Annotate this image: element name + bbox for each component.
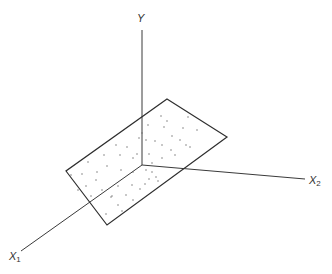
data-point (160, 115, 161, 116)
data-point (147, 124, 148, 125)
data-point (161, 157, 162, 158)
data-point (145, 139, 146, 140)
data-point (110, 196, 111, 197)
data-point (151, 162, 152, 163)
data-point (81, 173, 82, 174)
data-point (126, 146, 127, 147)
y-axis-label: Y (137, 13, 144, 24)
data-point (77, 189, 78, 190)
data-point (111, 195, 112, 196)
data-point (117, 204, 118, 205)
data-point (185, 144, 186, 145)
data-point (132, 157, 133, 158)
data-point (179, 139, 180, 140)
y-axis-label-text: Y (137, 12, 144, 24)
x2-axis-label: X2 (309, 175, 321, 188)
data-point (120, 169, 121, 170)
data-point (106, 165, 107, 166)
data-point (163, 126, 164, 127)
regression-plane (66, 99, 227, 225)
data-point (119, 154, 120, 155)
data-point (138, 137, 139, 138)
data-point (145, 169, 146, 170)
data-point (115, 144, 116, 145)
data-point (151, 171, 152, 172)
x2-axis-label-subscript: 2 (316, 179, 320, 188)
data-point (154, 140, 155, 141)
data-point (166, 120, 167, 121)
data-point (85, 185, 86, 186)
data-point (96, 171, 97, 172)
data-point (132, 171, 133, 172)
x2-axis (142, 165, 305, 179)
data-point (117, 185, 118, 186)
data-point (70, 174, 71, 175)
regression-plane-diagram (0, 0, 332, 274)
data-point (157, 180, 158, 181)
data-point (139, 188, 140, 189)
data-point (196, 129, 197, 130)
data-point (136, 153, 137, 154)
data-point (148, 178, 149, 179)
data-point (95, 179, 96, 180)
data-point (90, 195, 91, 196)
data-point (170, 149, 171, 150)
data-point (87, 161, 88, 162)
data-point (131, 184, 132, 185)
data-point (103, 154, 104, 155)
data-point (189, 146, 190, 147)
data-point (105, 213, 106, 214)
data-point (155, 176, 156, 177)
data-point (132, 199, 133, 200)
data-point (174, 154, 175, 155)
data-point (171, 135, 172, 136)
data-points (70, 115, 197, 214)
x1-axis (21, 165, 142, 251)
data-point (144, 183, 145, 184)
data-point (148, 153, 149, 154)
data-point (125, 194, 126, 195)
data-point (141, 132, 142, 133)
data-point (101, 189, 102, 190)
x1-axis-label: X1 (9, 251, 21, 264)
x1-axis-label-subscript: 1 (16, 255, 20, 264)
data-point (187, 116, 188, 117)
data-point (182, 127, 183, 128)
data-point (161, 144, 162, 145)
data-point (121, 210, 122, 211)
